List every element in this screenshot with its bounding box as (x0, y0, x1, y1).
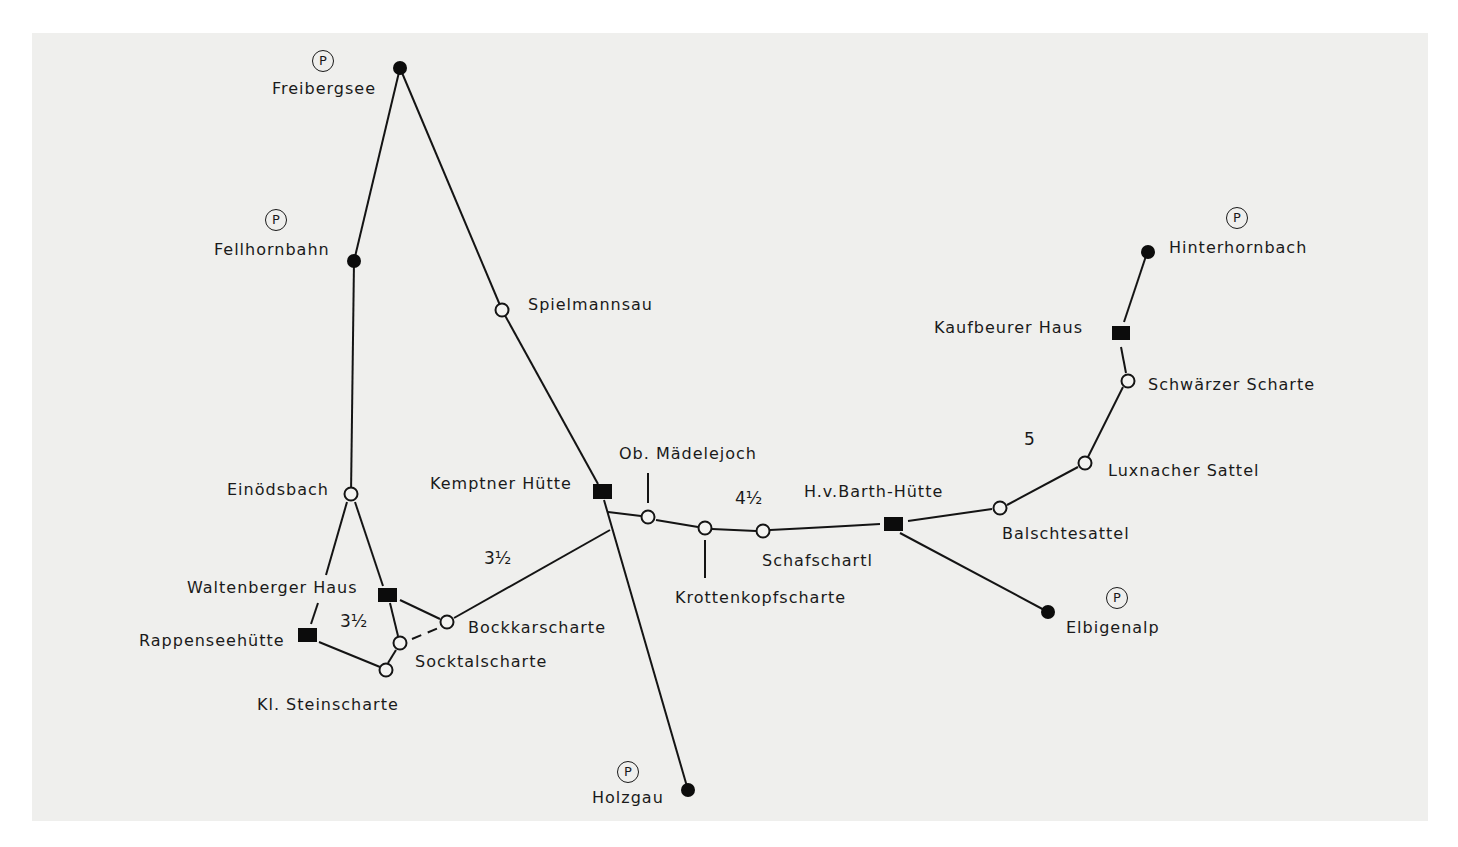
route-freibergsee-spielmannsau (400, 68, 502, 310)
distance-kemptner-hvbarth: 4½ (735, 490, 762, 507)
route-hvbarth-elbigenalp (900, 533, 1048, 612)
distance-waltenberger: 3½ (340, 613, 367, 630)
label-fellhornbahn: Fellhornbahn (214, 242, 330, 258)
route-waltenberger-socktalscharte (390, 603, 398, 636)
route-einoedsbach-rappensee (326, 502, 347, 575)
label-hinterhornbach: Hinterhornbach (1169, 240, 1307, 256)
route-luxnacher-schwaerzer (1088, 387, 1123, 457)
label-socktalscharte: Socktalscharte (415, 654, 547, 670)
label-waltenberger: Waltenberger Haus (187, 580, 358, 596)
label-einoedsbach: Einödsbach (227, 482, 329, 498)
label-kaufbeurer: Kaufbeurer Haus (934, 320, 1083, 336)
label-hvbarth: H.v.Barth-Hütte (804, 484, 943, 500)
node-socktalscharte[interactable] (394, 637, 407, 650)
label-rappensee: Rappenseehütte (139, 633, 285, 649)
route-schwaerzer-kaufbeurer (1121, 347, 1126, 373)
node-rappensee[interactable] (298, 628, 317, 642)
node-maedelejoch[interactable] (642, 511, 655, 524)
route-network (0, 0, 1458, 847)
distance-hvbarth-kaufbeurer: 5 (1024, 431, 1035, 448)
node-luxnacher[interactable] (1079, 457, 1092, 470)
parking-icon-elbigenalp: P (1106, 587, 1128, 609)
label-balschtesattel: Balschtesattel (1002, 526, 1130, 542)
parking-icon-hinterhornbach: P (1226, 207, 1248, 229)
route-balschtesattel-luxnacher (1007, 467, 1078, 505)
node-kl-steinscharte[interactable] (380, 664, 393, 677)
route-klsteinscharte-socktalscharte (388, 650, 396, 663)
route-bockkarscharte-kemptner (454, 530, 610, 618)
label-elbigenalp: Elbigenalp (1066, 620, 1160, 636)
label-maedelejoch: Ob. Mädelejoch (619, 446, 757, 462)
route-kemptner-holzgau (604, 500, 688, 790)
label-kl-steinscharte: Kl. Steinscharte (257, 697, 399, 713)
node-spielmannsau[interactable] (496, 304, 509, 317)
label-luxnacher: Luxnacher Sattel (1108, 463, 1259, 479)
node-hinterhornbach[interactable] (1141, 245, 1155, 259)
label-krottenkopf: Krottenkopfscharte (675, 590, 846, 606)
label-spielmannsau: Spielmannsau (528, 297, 653, 313)
parking-icon-freibergsee: P (312, 50, 334, 72)
route-schafschartl-hvbarth (770, 524, 880, 530)
node-waltenberger[interactable] (378, 588, 397, 602)
route-einoedsbach-waltenberger (355, 502, 383, 586)
distance-bockkar-kemptner: 3½ (484, 550, 511, 567)
parking-icon-holzgau: P (617, 761, 639, 783)
label-freibergsee: Freibergsee (272, 81, 376, 97)
node-fellhornbahn[interactable] (347, 254, 361, 268)
route-kemptner-maedelejoch (608, 512, 641, 516)
label-bockkarscharte: Bockkarscharte (468, 620, 606, 636)
node-freibergsee[interactable] (393, 61, 407, 75)
parking-icon-fellhornbahn: P (265, 209, 287, 231)
node-holzgau[interactable] (681, 783, 695, 797)
node-hvbarth[interactable] (884, 517, 903, 531)
node-kaufbeurer[interactable] (1112, 326, 1130, 340)
route-einoedsbach-rappensee-lower (311, 603, 318, 624)
route-waltenberger-bockkarscharte (400, 600, 440, 619)
route-krottenkopf-schafschartl (712, 529, 756, 531)
route-kaufbeurer-hinterhornbach (1124, 253, 1147, 322)
node-elbigenalp[interactable] (1041, 605, 1055, 619)
node-krottenkopf[interactable] (699, 522, 712, 535)
route-maedelejoch-krottenkopf (656, 520, 698, 527)
label-holzgau: Holzgau (592, 790, 664, 806)
label-schwaerzer: Schwärzer Scharte (1148, 377, 1315, 393)
label-schafschartl: Schafschartl (762, 553, 873, 569)
route-hvbarth-balschtesattel (908, 509, 992, 521)
node-balschtesattel[interactable] (994, 502, 1007, 515)
label-kemptner: Kemptner Hütte (430, 476, 572, 492)
route-fellhornbahn-einoedsbach (351, 261, 354, 494)
route-socktalscharte-bockkarscharte (412, 627, 441, 639)
node-bockkarscharte[interactable] (441, 616, 454, 629)
node-kemptner[interactable] (593, 484, 612, 499)
route-rappensee-klsteinscharte (319, 642, 380, 667)
node-schwaerzer[interactable] (1122, 375, 1135, 388)
route-spielmannsau-kemptner (502, 310, 598, 484)
node-schafschartl[interactable] (757, 525, 770, 538)
node-einoedsbach[interactable] (345, 488, 358, 501)
